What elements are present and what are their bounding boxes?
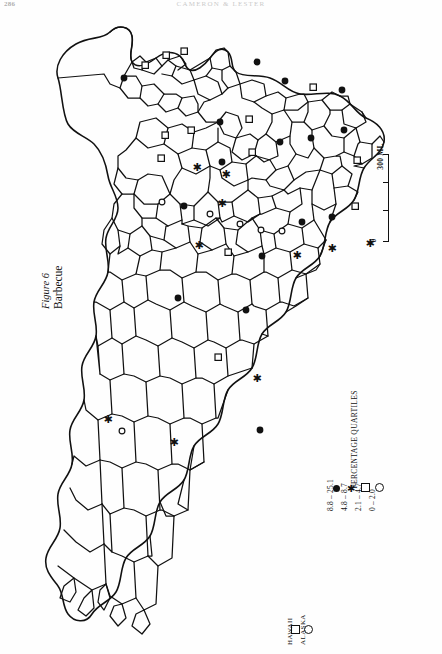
map-container: ✱ ✱ ✱ ✱ ✱ ✱ ✱ ✱ ✱ ✱ <box>0 0 442 654</box>
svg-text:✱: ✱ <box>194 239 203 252</box>
legend-inset-label-alaska: ALASKA <box>299 601 307 645</box>
legend-range-0: 8.8 – 25.1 <box>326 449 335 511</box>
scale-bar: 300 MI. 0 <box>379 148 395 248</box>
legend-percentage-quartiles: PERCENTAGE QUARTILES 8.8 – 25.1 ✱ 4.8 – … <box>318 372 390 494</box>
book-page: 286 CAMERON & LESTER Figure 6 Barbecue <box>0 0 442 654</box>
legend-inset-label-hawaii: HAWAII <box>286 601 294 645</box>
scale-zero-label: 0 <box>369 239 378 243</box>
united-states-map: ✱ ✱ ✱ ✱ ✱ ✱ ✱ ✱ ✱ ✱ <box>14 18 414 638</box>
svg-text:✱: ✱ <box>221 168 230 181</box>
legend-range-3: 0 – 2.0 <box>368 449 377 511</box>
svg-text:✱: ✱ <box>217 197 226 210</box>
scale-max-label: 300 MI. <box>376 143 385 169</box>
svg-text:✱: ✱ <box>327 242 336 255</box>
state-boundaries <box>46 27 385 634</box>
scale-tick-zero <box>383 241 389 242</box>
legend-entry-3: 0 – 2.0 <box>372 372 388 494</box>
svg-text:✱: ✱ <box>252 372 261 385</box>
scale-tick-2 <box>383 210 389 211</box>
scale-tick-1 <box>383 182 389 183</box>
legend-inset-alaska: ALASKA <box>301 580 315 636</box>
national-outline <box>46 27 385 621</box>
legend-range-1: 4.8 – 8.7 <box>340 449 349 511</box>
legend-inset-states: HAWAII ALASKA <box>288 580 338 636</box>
svg-text:✱: ✱ <box>292 249 301 262</box>
legend-range-2: 2.1 – 4.7 <box>354 449 363 511</box>
scale-bar-line <box>388 154 389 242</box>
svg-text:✱: ✱ <box>169 436 178 449</box>
svg-text:✱: ✱ <box>103 413 112 426</box>
svg-text:✱: ✱ <box>192 161 201 174</box>
